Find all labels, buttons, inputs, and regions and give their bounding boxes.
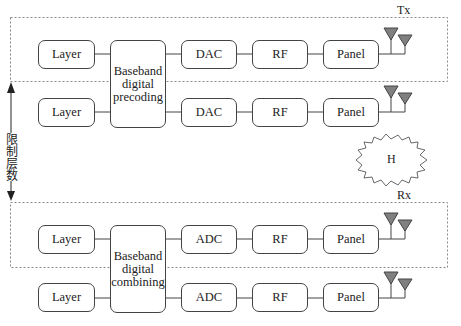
rx-layer-block-1: Layer	[38, 225, 95, 254]
tx-panel-block-1: Panel	[323, 40, 379, 69]
rx-panel-block-2: Panel	[323, 283, 379, 312]
tx-panel-block-2: Panel	[323, 98, 379, 127]
rx-layer-block-2: Layer	[38, 283, 95, 312]
rx-adc-block-1: ADC	[181, 225, 237, 254]
tx-label: Tx	[397, 3, 410, 18]
tx-dac-block-2: DAC	[181, 98, 237, 127]
tx-layer-block-2: Layer	[38, 98, 95, 127]
tx-dac-block-1: DAC	[181, 40, 237, 69]
arrow-up-icon	[7, 82, 15, 93]
channel-label: H	[387, 152, 396, 167]
rx-rf-block-2: RF	[252, 283, 308, 312]
tx-baseband-block: Baseband digital precoding	[110, 40, 166, 128]
tx-layer-block-1: Layer	[38, 40, 95, 69]
arrow-down-icon	[7, 191, 15, 201]
rx-rf-block-1: RF	[252, 225, 308, 254]
rx-baseband-block: Baseband digital combining	[110, 225, 166, 313]
rx-panel-block-1: Panel	[323, 225, 379, 254]
tx-rf-block-2: RF	[252, 98, 308, 127]
rx-label: Rx	[397, 188, 411, 203]
rx-adc-block-2: ADC	[181, 283, 237, 312]
layer-limit-label: 限制层数	[3, 133, 17, 181]
tx-rf-block-1: RF	[252, 40, 308, 69]
